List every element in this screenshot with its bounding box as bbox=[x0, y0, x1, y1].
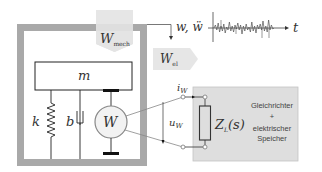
current-label: iW bbox=[177, 82, 188, 95]
generator-label: W bbox=[103, 114, 119, 130]
node-top bbox=[203, 95, 207, 99]
impedance-label: ZL(s) bbox=[214, 117, 245, 133]
excitation-indicator bbox=[147, 25, 173, 41]
excitation-label: w, ẅ bbox=[176, 20, 203, 34]
node-bottom bbox=[203, 145, 207, 149]
energy-harvester-diagram: Wmech w, ẅ t m k b bbox=[0, 0, 322, 172]
bottom-mount-bar bbox=[103, 152, 119, 155]
right-arrow-icon bbox=[285, 26, 289, 30]
damper-label: b bbox=[66, 114, 74, 129]
load-text-line-1: Gleichrichter bbox=[251, 101, 294, 110]
load-text-line-4: Speicher bbox=[257, 134, 287, 143]
terminal-bottom bbox=[181, 145, 185, 149]
spring bbox=[47, 90, 55, 159]
spring-label: k bbox=[32, 114, 40, 129]
load-text-line-2: + bbox=[270, 112, 275, 121]
load-text-line-3: elektrischer bbox=[253, 124, 292, 133]
voltage-arrow-icon bbox=[162, 140, 165, 144]
voltage-label: uW bbox=[169, 117, 183, 130]
excitation-signal-plot bbox=[208, 12, 289, 42]
mass-label: m bbox=[78, 68, 90, 83]
time-axis-label: t bbox=[293, 20, 299, 35]
top-mount-bar bbox=[103, 89, 119, 92]
damper bbox=[77, 90, 83, 159]
terminal-top bbox=[181, 95, 185, 99]
down-arrow-icon bbox=[169, 36, 173, 40]
